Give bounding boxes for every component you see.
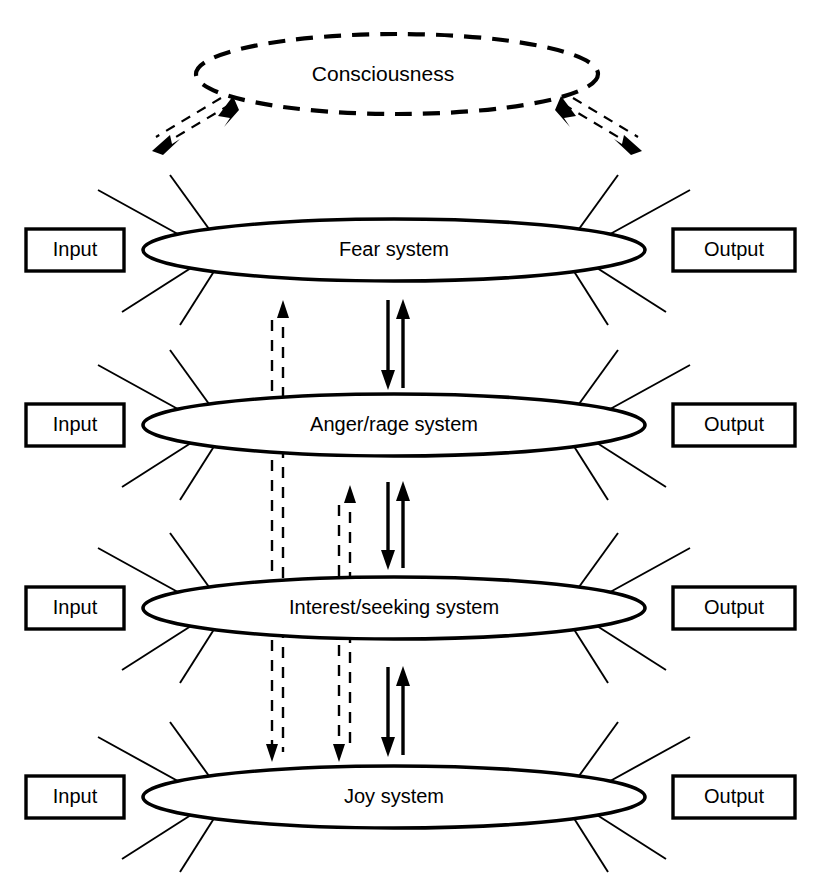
joy-to-anger-down-arrowhead [333,744,345,762]
fear-anger-solid-pair [381,299,410,390]
system-anger-rage[interactable]: Anger/rage system Input Output [26,350,795,500]
consciousness-left-arrowhead-up [218,96,239,127]
fear-anger-down-arrowhead [381,370,395,390]
interest-joy-up-arrowhead [396,666,410,686]
joy-to-fear-up-arrowhead [277,300,289,318]
interest-joy-down-arrowhead [381,737,395,757]
consciousness-left-link [152,96,239,155]
anger-interest-up-arrowhead [396,481,410,501]
fear-anger-up-arrowhead [396,299,410,319]
consciousness-left-arrowhead-down [152,135,180,155]
joy-system-label: Joy system [344,785,444,807]
interest-input-label: Input [53,596,98,618]
joy-output-label: Output [704,785,764,807]
joy-to-fear-down-arrowhead [266,744,278,762]
system-interest-seeking[interactable]: Interest/seeking system Input Output [26,533,795,683]
consciousness-right-arrowhead-up [555,96,576,127]
consciousness-label: Consciousness [312,62,454,85]
system-fear[interactable]: Fear system Input Output [26,175,795,325]
anger-input-label: Input [53,413,98,435]
anger-output-label: Output [704,413,764,435]
joy-to-fear-dashed [266,300,289,762]
diagram-root: Consciousness [0,0,822,886]
emotion-systems-diagram: Consciousness [0,0,822,886]
fear-system-label: Fear system [339,238,449,260]
fear-input-label: Input [53,238,98,260]
consciousness-right-link [555,96,642,155]
interest-output-label: Output [704,596,764,618]
anger-interest-down-arrowhead [381,550,395,570]
interest-joy-solid-pair [381,666,410,757]
joy-input-label: Input [53,785,98,807]
consciousness-right-arrowhead-down [614,135,642,155]
joy-to-anger-up-arrowhead [344,485,356,503]
anger-rage-system-label: Anger/rage system [310,413,478,435]
anger-interest-solid-pair [381,481,410,570]
system-joy[interactable]: Joy system Input Output [26,722,795,872]
interest-seeking-system-label: Interest/seeking system [289,596,499,618]
fear-output-label: Output [704,238,764,260]
consciousness-node[interactable]: Consciousness [196,34,598,114]
